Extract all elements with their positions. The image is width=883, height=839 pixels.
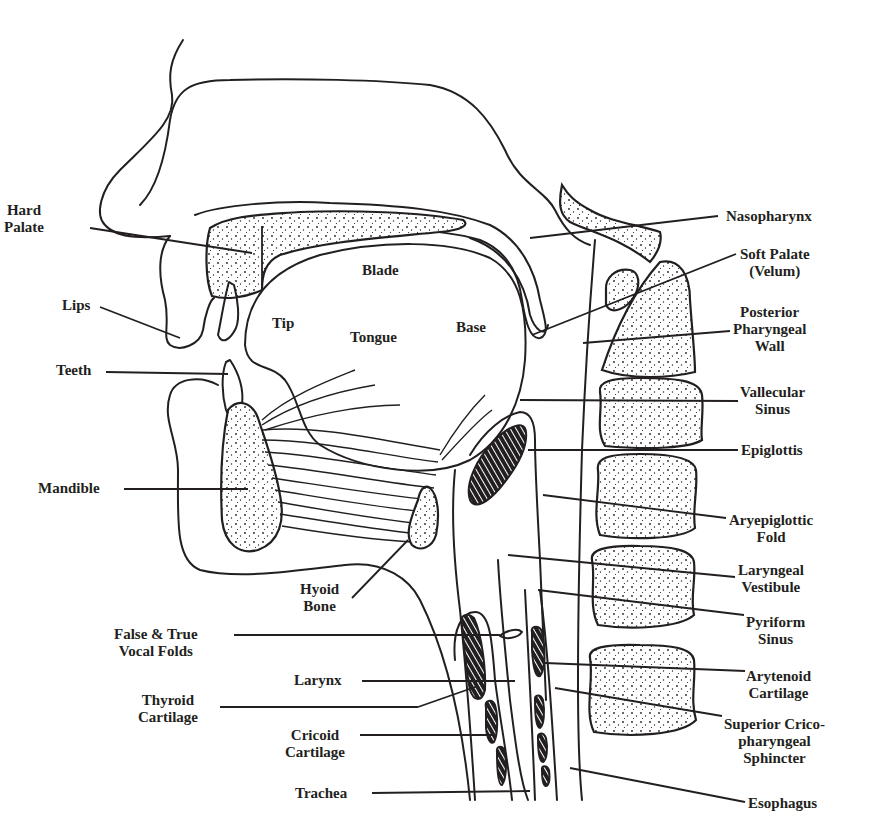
anatomy-diagram bbox=[0, 0, 883, 839]
label-false-true-vocal-folds: False & True Vocal Folds bbox=[114, 626, 198, 660]
hard-palate-bone bbox=[206, 211, 465, 298]
label-soft-palate: Soft Palate (Velum) bbox=[740, 246, 810, 280]
cricoid-cartilage bbox=[486, 701, 497, 743]
vertebra-c5 bbox=[592, 546, 695, 628]
vertebra-c6 bbox=[589, 645, 696, 735]
label-blade: Blade bbox=[362, 262, 399, 279]
label-superior-cricopharyngeal-sphincter: Superior Crico- pharyngeal Sphincter bbox=[724, 716, 825, 767]
label-vallecular-sinus: Vallecular Sinus bbox=[740, 384, 805, 418]
label-thyroid-cartilage: Thyroid Cartilage bbox=[138, 692, 198, 726]
label-nasopharynx: Nasopharynx bbox=[726, 208, 812, 225]
vertebra-c4 bbox=[596, 454, 696, 538]
label-arytenoid-cartilage: Arytenoid Cartilage bbox=[746, 668, 811, 702]
tongue-muscle-fibers bbox=[262, 370, 492, 542]
label-larynx: Larynx bbox=[294, 672, 342, 689]
label-trachea: Trachea bbox=[295, 785, 347, 802]
hyoid-bone bbox=[409, 487, 438, 549]
mandible-bone bbox=[221, 403, 282, 551]
esophagus-anterior bbox=[525, 590, 535, 800]
epiglottis-cartilage bbox=[469, 425, 526, 504]
label-base: Base bbox=[456, 319, 486, 336]
arytenoid-cartilage bbox=[532, 627, 545, 676]
label-mandible: Mandible bbox=[38, 480, 100, 497]
cricopharyngeal-ring-3 bbox=[542, 766, 549, 786]
label-esophagus: Esophagus bbox=[748, 795, 817, 812]
face-profile bbox=[100, 40, 470, 800]
label-pyriform-sinus: Pyriform Sinus bbox=[746, 614, 805, 648]
cervical-vertebrae bbox=[589, 261, 702, 734]
label-teeth: Teeth bbox=[56, 362, 91, 379]
sphenoid-region bbox=[560, 185, 661, 262]
label-aryepiglottic-fold: Aryepiglottic Fold bbox=[729, 512, 813, 546]
vertebra-c3 bbox=[600, 378, 703, 448]
thyroid-cartilage bbox=[461, 615, 485, 699]
label-epiglottis: Epiglottis bbox=[741, 442, 803, 459]
label-posterior-pharyngeal-wall: Posterior Pharyngeal Wall bbox=[733, 304, 806, 355]
tracheal-ring bbox=[497, 747, 506, 785]
label-hard-palate: Hard Palate bbox=[4, 202, 44, 236]
label-laryngeal-vestibule: Laryngeal Vestibule bbox=[738, 562, 804, 596]
label-tongue: Tongue bbox=[350, 329, 397, 346]
label-cricoid-cartilage: Cricoid Cartilage bbox=[285, 727, 345, 761]
label-tip: Tip bbox=[272, 315, 294, 332]
label-hyoid-bone: Hyoid Bone bbox=[300, 581, 339, 615]
cricopharyngeal-ring-2 bbox=[538, 734, 547, 763]
label-lips: Lips bbox=[62, 297, 90, 314]
cricopharyngeal-ring-1 bbox=[535, 696, 544, 729]
